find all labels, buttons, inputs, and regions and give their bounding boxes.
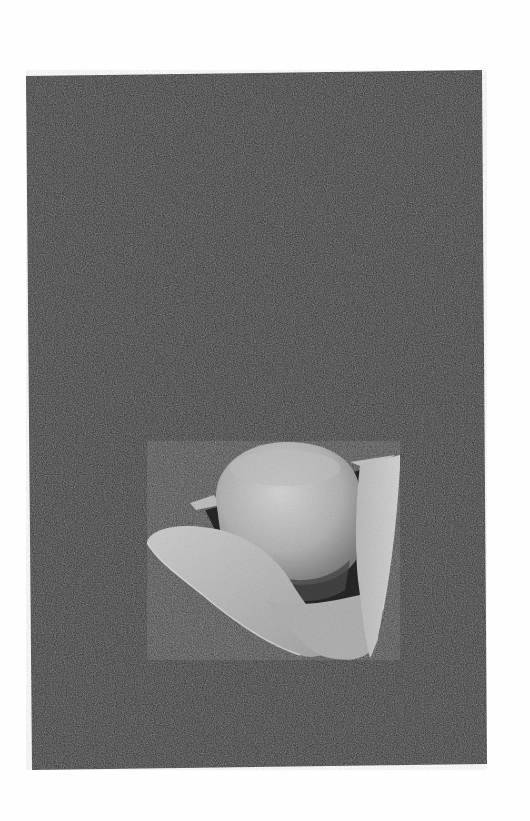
- photo: [0, 0, 530, 821]
- page: Grayscale photograph of a felt tricorne …: [0, 0, 530, 821]
- dark-background: [26, 70, 487, 770]
